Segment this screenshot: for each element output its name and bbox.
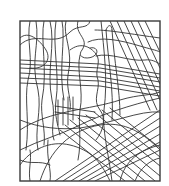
line-art-canvas (0, 0, 169, 186)
line-art (0, 0, 169, 186)
line-pattern (20, 21, 160, 181)
